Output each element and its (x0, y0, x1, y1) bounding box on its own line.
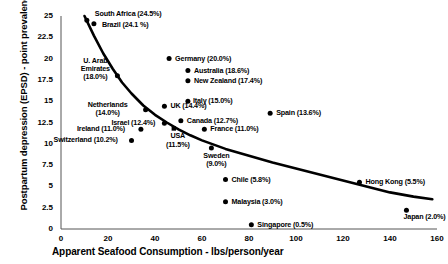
label-japan: Japan (2.0%) (403, 213, 445, 221)
marker-switzerland (129, 138, 134, 143)
label-germany: Germany (20.0%) (175, 55, 231, 63)
marker-canada (178, 118, 183, 123)
postpartum-depression-seafood-chart: Postpartum depression (EPSD) - point pre… (0, 0, 448, 264)
marker-sweden (209, 146, 214, 151)
marker-germany (167, 56, 172, 61)
label-netherlands: Netherlands (14.0%) (76, 101, 140, 117)
label-chile: Chile (5.8%) (232, 176, 271, 184)
marker-spain (268, 111, 273, 116)
marker-israel (162, 121, 167, 126)
label-france: France (11.0%) (210, 125, 258, 133)
marker-brazil (91, 21, 96, 26)
label-switzerland: Switzerland (10.2%) (54, 136, 118, 144)
marker-hong-kong (357, 180, 362, 185)
label-australia: Australia (18.6%) (194, 67, 249, 75)
marker-uk (162, 104, 167, 109)
label-malaysia: Malaysia (3.0%) (232, 198, 283, 206)
marker-singapore (249, 222, 254, 227)
label-ireland: Ireland (11.0%) (77, 125, 125, 133)
marker-ireland (138, 127, 143, 132)
marker-france (202, 127, 207, 132)
marker-australia (185, 68, 190, 73)
label-uk: UK (14.4%) (170, 102, 206, 110)
label-new-zealand: New Zealand (17.4%) (194, 77, 262, 85)
marker-new-zealand (185, 78, 190, 83)
label-u-arab-emirates: U. Arab Emirates (18.0%) (73, 57, 117, 82)
label-usa: USA (11.5%) (162, 132, 194, 148)
label-spain: Spain (13.6%) (276, 109, 321, 117)
marker-south-africa (84, 18, 89, 23)
marker-malaysia (223, 199, 228, 204)
label-south-africa: South Africa (24.5%) (95, 10, 162, 18)
label-brazil: Brazil (24.1 %) (102, 21, 148, 29)
label-hong-kong: Hong Kong (5.5%) (365, 178, 425, 186)
label-sweden: Sweden (9.0%) (197, 152, 235, 168)
label-singapore: Singapore (0.5%) (257, 221, 313, 229)
marker-netherlands (143, 107, 148, 112)
marker-usa (172, 126, 176, 130)
marker-chile (223, 177, 228, 182)
